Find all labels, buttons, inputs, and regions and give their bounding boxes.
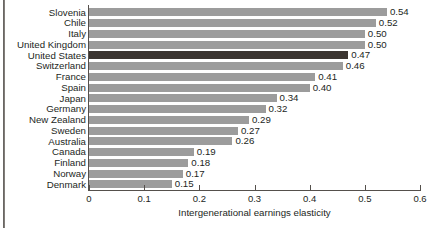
- category-label: France: [56, 71, 86, 82]
- bar: [89, 94, 277, 102]
- bar: [89, 159, 188, 167]
- bar: [89, 105, 266, 113]
- bar-value-label: 0.41: [318, 71, 337, 82]
- bar: [89, 170, 183, 178]
- bar: [89, 19, 376, 27]
- x-axis-tick: [144, 185, 145, 190]
- category-label: Chile: [64, 17, 86, 28]
- category-label: Switzerland: [36, 60, 86, 71]
- bar-chart: Slovenia0.54Chile0.52Italy0.50United Kin…: [0, 0, 442, 233]
- bar-row: Germany0.32: [0, 104, 442, 115]
- x-axis-tick-label: 0.2: [179, 193, 219, 205]
- category-label: Canada: [52, 146, 86, 157]
- bar: [89, 127, 238, 135]
- bar: [89, 180, 172, 188]
- bar-row: United States0.47: [0, 50, 442, 61]
- bar-row: Norway0.17: [0, 168, 442, 179]
- x-axis-tick-label: 0.1: [124, 193, 164, 205]
- x-axis-tick: [89, 185, 90, 190]
- x-axis-tick: [365, 185, 366, 190]
- bar-row: Canada0.19: [0, 147, 442, 158]
- bar-value-label: 0.50: [368, 39, 387, 50]
- plot-area: Slovenia0.54Chile0.52Italy0.50United Kin…: [0, 0, 442, 233]
- bar-value-label: 0.32: [269, 103, 288, 114]
- bar-value-label: 0.18: [191, 157, 210, 168]
- bar-row: Denmark0.15: [0, 179, 442, 190]
- x-axis-tick: [420, 185, 421, 190]
- bar-value-label: 0.27: [241, 125, 260, 136]
- bar-value-label: 0.26: [235, 135, 254, 146]
- bar-row: Spain0.40: [0, 82, 442, 93]
- category-label: United States: [28, 50, 86, 61]
- bar-rows: Slovenia0.54Chile0.52Italy0.50United Kin…: [0, 0, 442, 190]
- bar: [89, 116, 249, 124]
- bar-value-label: 0.40: [313, 82, 332, 93]
- category-label: Norway: [53, 168, 86, 179]
- x-axis-tick-label: 0.6: [400, 193, 440, 205]
- x-axis-tick-label: 0.4: [290, 193, 330, 205]
- bar-row: Slovenia0.54: [0, 7, 442, 18]
- category-label: Finland: [54, 157, 86, 168]
- x-axis-tick-label: 0.3: [235, 193, 275, 205]
- value-axis-line: [88, 190, 421, 191]
- x-axis-tick-label: 0.5: [345, 193, 385, 205]
- x-axis-tick: [199, 185, 200, 190]
- bar: [89, 51, 348, 59]
- bar-row: New Zealand0.29: [0, 115, 442, 126]
- bar-value-label: 0.29: [252, 114, 271, 125]
- x-axis-title: Intergenerational earnings elasticity: [88, 207, 421, 219]
- x-axis-tick: [255, 185, 256, 190]
- bar: [89, 84, 310, 92]
- bar: [89, 73, 315, 81]
- bar-row: Chile0.52: [0, 18, 442, 29]
- bar-row: Finland0.18: [0, 158, 442, 169]
- bar-value-label: 0.46: [346, 60, 365, 71]
- category-label: United Kingdom: [17, 39, 86, 50]
- bar: [89, 137, 232, 145]
- bar-value-label: 0.19: [197, 146, 216, 157]
- bar-row: Italy0.50: [0, 29, 442, 40]
- category-label: Slovenia: [49, 7, 86, 18]
- bar: [89, 62, 343, 70]
- bar-value-label: 0.17: [186, 168, 205, 179]
- bar-row: Switzerland0.46: [0, 61, 442, 72]
- bar-row: United Kingdom0.50: [0, 39, 442, 50]
- category-label: Sweden: [51, 125, 86, 136]
- bar: [89, 8, 387, 16]
- x-axis-tick: [310, 185, 311, 190]
- category-label: Denmark: [47, 179, 86, 190]
- bar-value-label: 0.47: [351, 49, 370, 60]
- bar-row: Sweden0.27: [0, 125, 442, 136]
- bar-row: France0.41: [0, 72, 442, 83]
- bar: [89, 30, 365, 38]
- bar-row: Australia0.26: [0, 136, 442, 147]
- x-axis-tick-label: 0: [69, 193, 109, 205]
- bar-value-label: 0.15: [175, 178, 194, 189]
- bar-value-label: 0.50: [368, 28, 387, 39]
- category-label: New Zealand: [29, 114, 86, 125]
- bar-row: Japan0.34: [0, 93, 442, 104]
- category-label: Australia: [48, 136, 86, 147]
- bar: [89, 41, 365, 49]
- bar-value-label: 0.34: [280, 92, 299, 103]
- category-label: Germany: [46, 103, 86, 114]
- category-label: Spain: [61, 82, 86, 93]
- bar: [89, 148, 194, 156]
- category-label: Italy: [68, 28, 86, 39]
- bar-value-label: 0.54: [390, 6, 409, 17]
- category-label: Japan: [60, 93, 86, 104]
- bar-value-label: 0.52: [379, 17, 398, 28]
